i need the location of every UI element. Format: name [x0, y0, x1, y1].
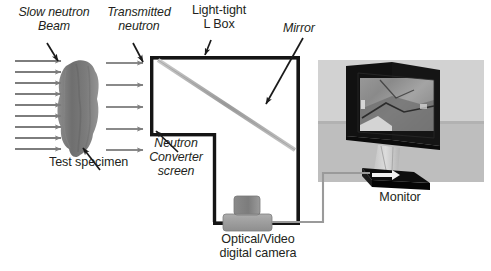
- pointer-arrow-icon: [47, 43, 58, 61]
- label-monitor: Monitor: [360, 190, 440, 204]
- camera-icon: [223, 196, 272, 231]
- label-light-tight-l-box: Light-tight L Box: [178, 3, 260, 31]
- label-mirror: Mirror: [283, 22, 353, 36]
- label-transmitted-neutron: Transmitted neutron: [92, 6, 186, 34]
- diagram-vector-layer: [0, 0, 491, 271]
- label-neutron-converter-screen: Neutron Converter screen: [130, 137, 222, 179]
- figure-canvas: Slow neutron Beam Transmitted neutron Li…: [0, 0, 491, 271]
- incident-beam-arrows: [15, 61, 61, 149]
- test-specimen-icon: [58, 60, 99, 157]
- monitor-photo-icon: [318, 60, 484, 190]
- pointer-arrow-icon: [205, 40, 211, 55]
- label-optical-video-digital-camera: Optical/Video digital camera: [199, 232, 317, 260]
- label-slow-neutron-beam: Slow neutron Beam: [2, 6, 106, 34]
- pointer-arrow-icon: [133, 43, 143, 62]
